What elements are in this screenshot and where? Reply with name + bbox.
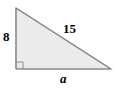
horizontal-leg-label: a [60,72,67,85]
triangle-graphic [0,0,117,88]
vertical-leg-label: 8 [3,30,10,43]
right-triangle-figure: 8 15 a [0,0,117,88]
hypotenuse-label: 15 [63,22,76,35]
